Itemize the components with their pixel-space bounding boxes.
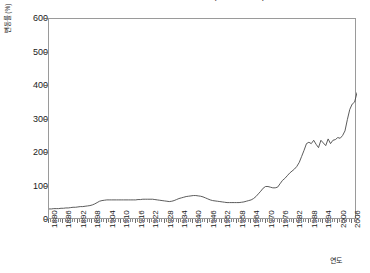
x-tick-minor — [147, 219, 148, 222]
x-tick-minor — [200, 219, 201, 222]
x-tick-mark — [265, 219, 266, 223]
x-tick-minor — [173, 219, 174, 222]
x-tick-mark — [48, 219, 49, 223]
x-tick-minor — [209, 219, 210, 222]
x-tick-minor — [161, 219, 162, 222]
x-tick-mark — [308, 219, 309, 223]
x-tick-minor — [96, 219, 97, 222]
x-tick-mark — [149, 219, 150, 223]
x-tick-mark — [164, 219, 165, 223]
x-tick-minor — [108, 219, 109, 222]
x-tick-mark — [250, 219, 251, 223]
x-tick-minor — [84, 219, 85, 222]
x-tick-mark — [337, 219, 338, 223]
x-tick-minor — [216, 219, 217, 222]
x-tick-minor — [185, 219, 186, 222]
x-tick-mark — [207, 219, 208, 223]
x-tick-minor — [154, 219, 155, 222]
x-tick-mark — [178, 219, 179, 223]
x-tick-minor — [298, 219, 299, 222]
x-tick-minor — [255, 219, 256, 222]
x-tick-minor — [103, 219, 104, 222]
data-line-svg — [49, 19, 357, 220]
x-tick-minor — [144, 219, 145, 222]
x-tick-minor — [113, 219, 114, 222]
x-tick-minor — [82, 219, 83, 222]
x-tick-minor — [202, 219, 203, 222]
x-tick-minor — [238, 219, 239, 222]
x-tick-minor — [166, 219, 167, 222]
x-tick-minor — [115, 219, 116, 222]
x-tick-minor — [291, 219, 292, 222]
x-tick-minor — [214, 219, 215, 222]
x-tick-minor — [289, 219, 290, 222]
x-tick-minor — [241, 219, 242, 222]
x-tick-minor — [269, 219, 270, 222]
x-tick-minor — [132, 219, 133, 222]
y-axis-label: 변동률 (%) — [4, 0, 11, 45]
x-tick-minor — [226, 219, 227, 222]
x-tick-minor — [127, 219, 128, 222]
x-tick-minor — [310, 219, 311, 222]
x-tick-minor — [272, 219, 273, 222]
x-tick-minor — [313, 219, 314, 222]
x-tick-minor — [176, 219, 177, 222]
x-tick-mark — [135, 219, 136, 223]
x-tick-minor — [60, 219, 61, 222]
x-tick-minor — [67, 219, 68, 222]
x-tick-minor — [190, 219, 191, 222]
x-tick-minor — [281, 219, 282, 222]
x-tick-minor — [180, 219, 181, 222]
x-tick-minor — [99, 219, 100, 222]
x-tick-minor — [123, 219, 124, 222]
x-tick-minor — [260, 219, 261, 222]
x-tick-minor — [130, 219, 131, 222]
x-tick-minor — [139, 219, 140, 222]
x-tick-minor — [296, 219, 297, 222]
x-tick-mark — [236, 219, 237, 223]
x-tick-minor — [101, 219, 102, 222]
x-tick-minor — [151, 219, 152, 222]
x-tick-minor — [339, 219, 340, 222]
x-tick-minor — [286, 219, 287, 222]
x-tick-minor — [94, 219, 95, 222]
x-tick-minor — [188, 219, 189, 222]
x-tick-minor — [79, 219, 80, 222]
x-tick-minor — [53, 219, 54, 222]
x-tick-minor — [171, 219, 172, 222]
x-tick-minor — [183, 219, 184, 222]
x-tick-minor — [137, 219, 138, 222]
x-tick-minor — [342, 219, 343, 222]
plot-area — [48, 18, 356, 219]
x-tick-minor — [253, 219, 254, 222]
x-tick-minor — [228, 219, 229, 222]
x-tick-minor — [111, 219, 112, 222]
x-tick-minor — [231, 219, 232, 222]
x-tick-minor — [72, 219, 73, 222]
x-tick-minor — [334, 219, 335, 222]
x-tick-minor — [87, 219, 88, 222]
x-tick-minor — [125, 219, 126, 222]
x-tick-minor — [267, 219, 268, 222]
chart-container: 그림. 연도별 지가변동률 추이 (1880~2008) 변동률 (%) 010… — [0, 0, 370, 273]
x-tick-minor — [262, 219, 263, 222]
x-tick-minor — [212, 219, 213, 222]
x-tick-minor — [118, 219, 119, 222]
x-tick-minor — [243, 219, 244, 222]
x-tick-minor — [257, 219, 258, 222]
x-tick-minor — [303, 219, 304, 222]
y-axis: 0100200300400500600 — [14, 18, 48, 219]
x-tick-minor — [320, 219, 321, 222]
x-tick-minor — [245, 219, 246, 222]
x-tick-mark — [77, 219, 78, 223]
x-tick-minor — [301, 219, 302, 222]
x-tick-minor — [346, 219, 347, 222]
x-tick-minor — [58, 219, 59, 222]
x-tick-minor — [277, 219, 278, 222]
x-tick-minor — [204, 219, 205, 222]
x-tick-minor — [327, 219, 328, 222]
x-tick-minor — [70, 219, 71, 222]
x-tick-mark — [279, 219, 280, 223]
x-tick-minor — [142, 219, 143, 222]
x-tick-minor — [168, 219, 169, 222]
